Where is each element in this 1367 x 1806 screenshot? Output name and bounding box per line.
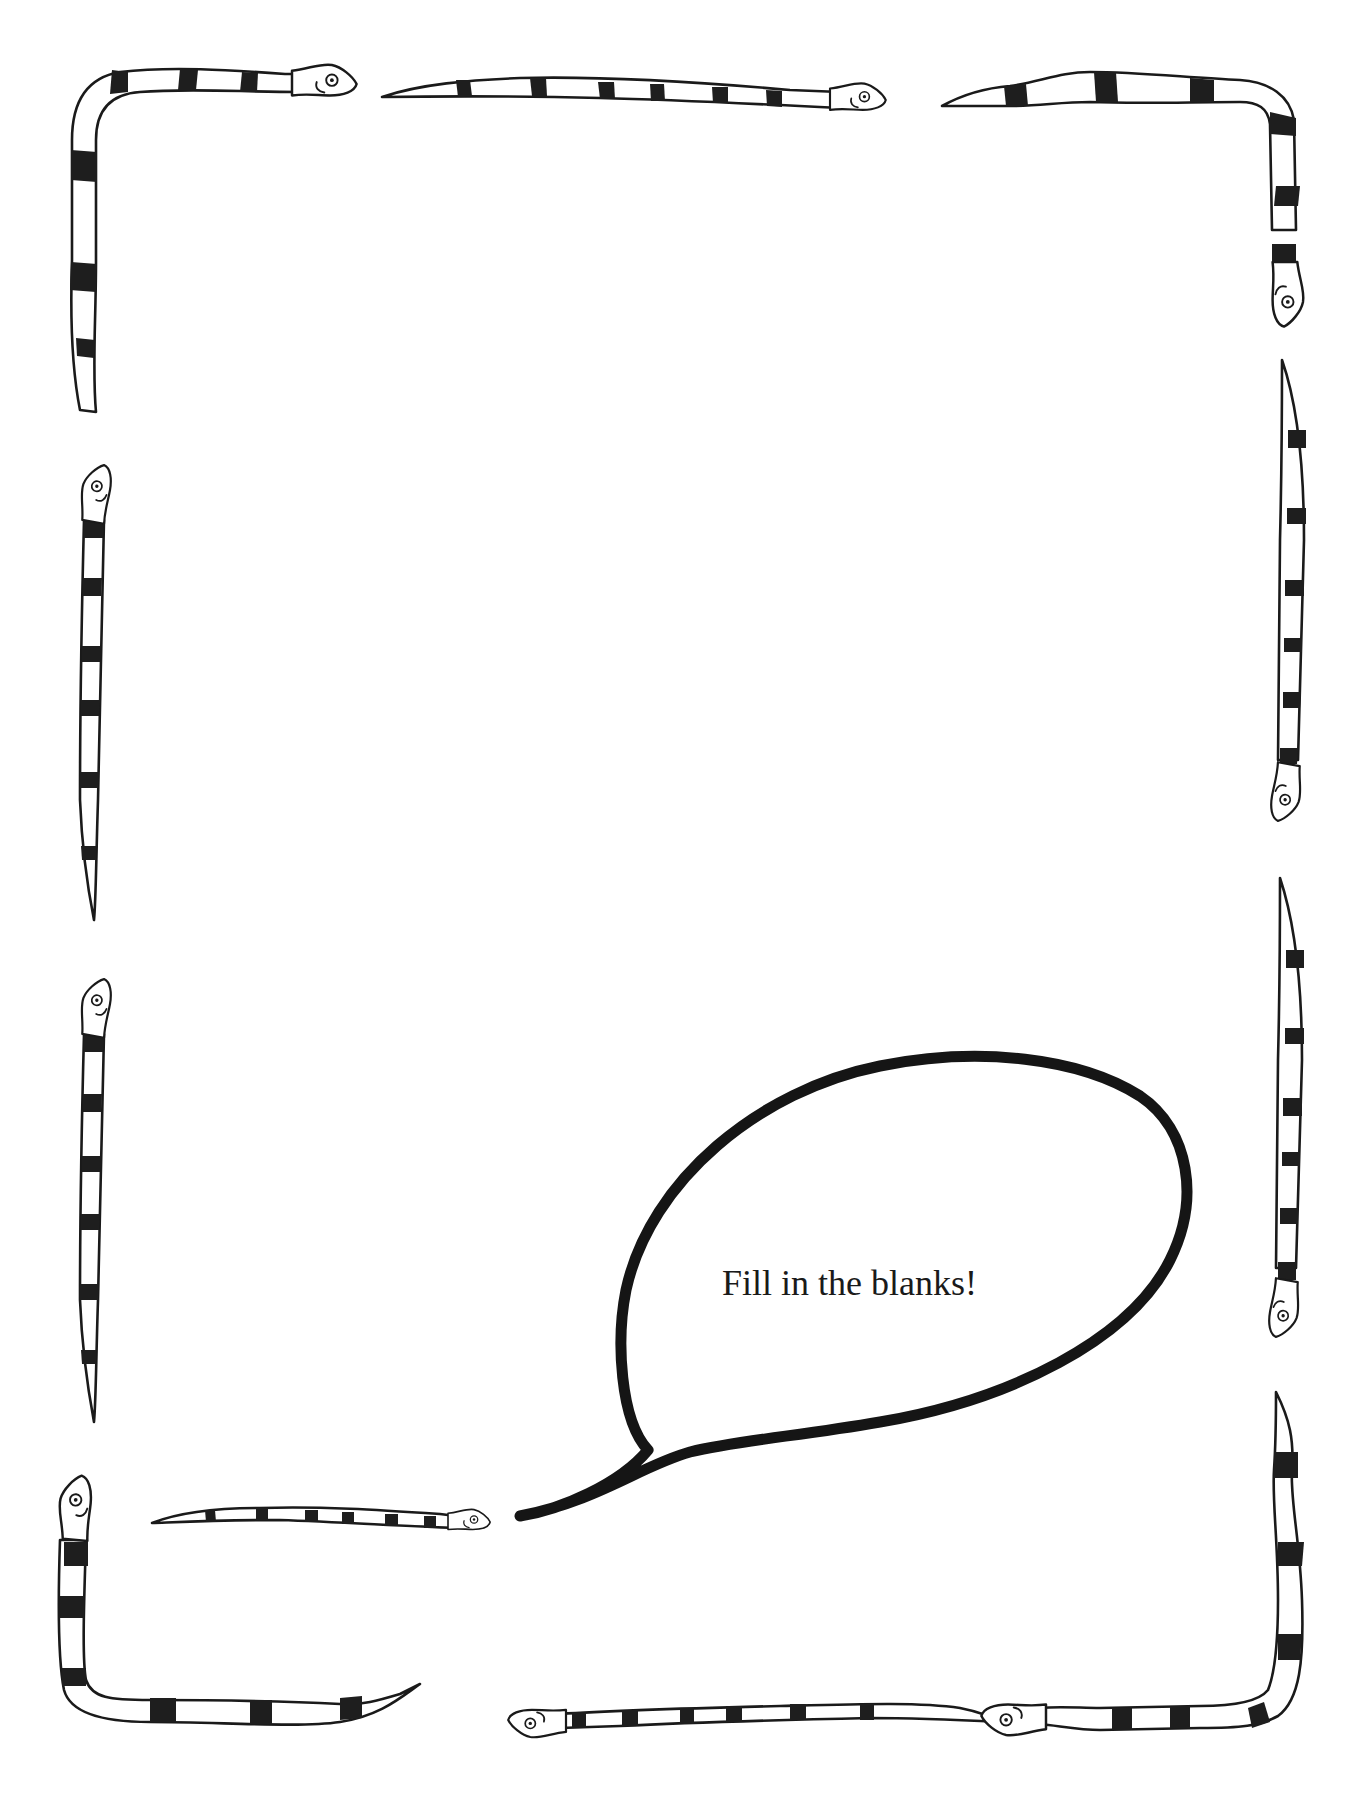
snake-border-illustration [0,0,1367,1806]
speech-bubble-text: Fill in the blanks! [722,1262,1082,1304]
left-lower-snake [77,976,114,1422]
top-left-corner-snake [70,65,357,412]
worksheet-page: Fill in the blanks! [0,0,1367,1806]
right-upper-snake [1268,360,1306,824]
top-middle-snake [382,78,886,110]
bottom-middle-snake [508,1704,1000,1737]
top-right-corner-snake [942,72,1303,327]
bottom-inner-snake [152,1507,490,1529]
left-upper-snake [77,462,114,920]
right-lower-snake [1266,878,1304,1340]
bottom-right-corner-snake [981,1392,1304,1735]
